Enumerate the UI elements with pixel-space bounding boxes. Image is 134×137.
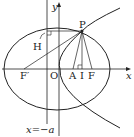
right-angle-H-icon xyxy=(47,31,51,35)
label-A: A xyxy=(68,70,77,81)
label-F-prime: F′ xyxy=(20,70,30,81)
label-O: O xyxy=(50,70,58,81)
label-F: F xyxy=(88,70,95,81)
parabola xyxy=(59,8,120,128)
x-axis-label: x xyxy=(126,70,132,81)
label-I: I xyxy=(80,70,84,81)
label-H: H xyxy=(33,41,42,52)
H-pointer xyxy=(40,33,45,39)
right-angle-I-icon xyxy=(78,65,82,69)
y-axis-label: y xyxy=(51,1,58,12)
segment-PA xyxy=(73,31,82,69)
label-P: P xyxy=(79,19,86,30)
conic-diagram: y x P H F′ O A I F x=−a xyxy=(0,0,134,137)
directrix-label: x=−a xyxy=(26,124,54,135)
